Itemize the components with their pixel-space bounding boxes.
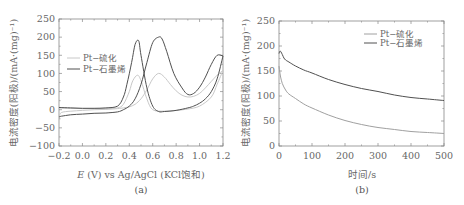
series-line — [279, 51, 444, 101]
y-tick-label: 250 — [37, 13, 55, 24]
x-tick-label: 0.0 — [75, 150, 90, 161]
y-axis-title-b: 电流密度(阳极)/(mA·(mg)⁻¹) — [240, 19, 251, 147]
series-line — [59, 40, 223, 112]
legend-a: Pt−硫化 Pt−石墨烯 — [67, 53, 126, 74]
x-tick-label: 500 — [435, 150, 453, 161]
x-axis-title-b: 时间/s — [348, 169, 376, 180]
x-tick-label: 0.6 — [145, 150, 160, 161]
series-line — [59, 71, 223, 118]
legend-label-pt-graphene: Pt−石墨烯 — [83, 64, 126, 74]
legend-b: Pt−硫化 Pt−石墨烯 — [364, 29, 423, 48]
panel-label-b: (b) — [355, 184, 369, 195]
x-tick-label: 300 — [369, 150, 387, 161]
y-tick-label: 50 — [43, 86, 55, 97]
x-tick-label: 200 — [336, 150, 354, 161]
x-tick-label: −0.2 — [47, 150, 70, 161]
series-line — [279, 66, 444, 134]
chronoamperometry-chart-panel: 0100200300400500050100150200250 Pt−硫化 Pt… — [240, 15, 453, 195]
x-tick-label: 1.2 — [215, 150, 230, 161]
x-tick-label: 0.2 — [98, 150, 113, 161]
y-tick-label: 0 — [49, 104, 55, 115]
x-tick-label: 400 — [402, 150, 420, 161]
y-tick-label: 100 — [257, 90, 275, 101]
x-tick-label: 100 — [303, 150, 321, 161]
y-tick-label: 50 — [263, 115, 275, 126]
y-axis-title-a: 电流密度(阳极)/(mA·(mg)⁻¹) — [8, 19, 19, 147]
y-tick-label: 0 — [269, 140, 275, 151]
x-tick-label: 0.4 — [122, 150, 137, 161]
x-axis-title-a: E (V) vs Ag/AgCl (KCl饱和) — [76, 169, 205, 180]
y-tick-label: 150 — [37, 50, 55, 61]
cv-chart-panel: −0.20.00.20.40.60.81.01.2−100−5005010015… — [8, 13, 231, 195]
panel-label-a: (a) — [134, 184, 147, 195]
figure: −0.20.00.20.40.60.81.01.2−100−5005010015… — [0, 0, 464, 205]
legend-label-pt-graphene: Pt−石墨烯 — [380, 38, 423, 48]
plot-frame-a — [59, 19, 223, 146]
legend-label-pt-sulfide: Pt−硫化 — [83, 53, 117, 63]
y-tick-label: 100 — [37, 68, 55, 79]
series-group-b — [279, 51, 444, 134]
series-line — [59, 71, 223, 112]
y-tick-label: −50 — [35, 122, 55, 133]
x-tick-label: 1.0 — [192, 150, 207, 161]
y-tick-label: −100 — [29, 140, 55, 151]
y-tick-label: 200 — [257, 40, 275, 51]
y-tick-label: 250 — [257, 15, 275, 26]
y-tick-label: 150 — [257, 65, 275, 76]
y-tick-label: 200 — [37, 31, 55, 42]
series-line — [59, 37, 223, 117]
series-group-a — [59, 37, 223, 117]
x-tick-label: 0.8 — [169, 150, 184, 161]
axis-ticks-b: 0100200300400500050100150200250 — [257, 15, 453, 161]
x-tick-label: 0 — [276, 150, 282, 161]
